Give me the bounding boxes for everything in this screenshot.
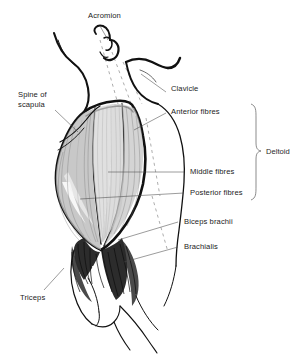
label-middle-fibres: Middle fibres bbox=[190, 167, 234, 176]
anatomical-figure: Acromion Spine of scapula Clavicle Anter… bbox=[0, 0, 298, 357]
label-clavicle: Clavicle bbox=[171, 84, 198, 93]
label-biceps-brachii: Biceps brachii bbox=[184, 217, 233, 226]
label-triceps: Triceps bbox=[20, 293, 45, 302]
label-brachialis: Brachialis bbox=[184, 242, 218, 251]
label-deltoid: Deltoid bbox=[266, 147, 290, 156]
label-acromion: Acromion bbox=[88, 11, 121, 20]
label-spine-of-scapula-line2: scapula bbox=[18, 100, 46, 109]
label-posterior-fibres: Posterior fibres bbox=[190, 188, 243, 197]
label-anterior-fibres: Anterior fibres bbox=[171, 107, 220, 116]
deltoid-anatomy-illustration: Acromion Spine of scapula Clavicle Anter… bbox=[0, 0, 298, 357]
label-spine-of-scapula-line1: Spine of bbox=[18, 90, 47, 99]
figure-background bbox=[0, 0, 298, 357]
